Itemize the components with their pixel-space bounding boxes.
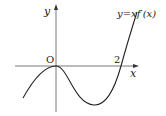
- origin-label: O: [46, 54, 54, 65]
- curve-label: y=xf′(x): [116, 8, 156, 19]
- x-axis-label: x: [130, 67, 137, 80]
- function-graph: y x O 2 y=xf′(x): [0, 0, 166, 116]
- y-axis-arrow-icon: [54, 4, 58, 10]
- y-axis-label: y: [43, 5, 51, 18]
- tick-label-2: 2: [114, 54, 120, 65]
